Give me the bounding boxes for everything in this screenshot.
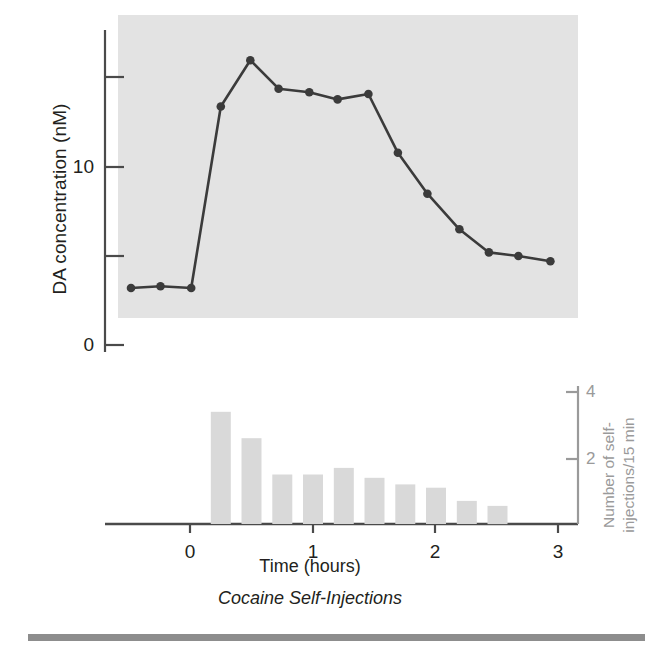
bar bbox=[242, 438, 262, 524]
data-point bbox=[156, 282, 165, 291]
bar bbox=[395, 484, 415, 524]
data-point bbox=[514, 252, 523, 261]
data-point bbox=[423, 189, 432, 198]
bar bbox=[334, 468, 354, 524]
self-injection-bars bbox=[211, 412, 508, 524]
data-point bbox=[364, 90, 373, 99]
y-tick-label-0: 0 bbox=[48, 334, 94, 356]
bar bbox=[211, 412, 231, 524]
data-point bbox=[187, 284, 196, 293]
data-point bbox=[333, 95, 342, 104]
data-point bbox=[485, 248, 494, 257]
data-point bbox=[274, 84, 283, 93]
bar bbox=[457, 501, 477, 524]
data-point bbox=[546, 257, 555, 266]
data-point bbox=[394, 149, 403, 158]
y-axis-title-right: Number of self- injections/15 min bbox=[599, 375, 639, 575]
bar bbox=[272, 475, 292, 525]
y-axis-title-right-line1: Number of self- bbox=[599, 375, 619, 575]
bar bbox=[488, 506, 508, 524]
footer-rule bbox=[28, 634, 645, 641]
da-concentration-series bbox=[127, 56, 555, 292]
data-point bbox=[305, 88, 314, 97]
bar bbox=[365, 478, 385, 524]
data-point bbox=[127, 284, 136, 293]
y-axis-title-right-line2: injections/15 min bbox=[619, 375, 639, 575]
figure-panel: 10 0 4 2 0 1 2 3 DA concentration (nM) N… bbox=[0, 0, 670, 652]
x-tick-label-3: 3 bbox=[543, 541, 573, 563]
y-axis-title-left: DA concentration (nM) bbox=[49, 69, 71, 329]
data-point bbox=[455, 225, 464, 234]
x-axis-title: Time (hours) bbox=[185, 556, 435, 577]
left-axis-group bbox=[105, 30, 124, 352]
data-point bbox=[246, 56, 255, 65]
figure-caption: Cocaine Self-Injections bbox=[130, 588, 490, 609]
data-point bbox=[217, 102, 226, 111]
bar bbox=[303, 475, 323, 525]
bar bbox=[426, 488, 446, 524]
